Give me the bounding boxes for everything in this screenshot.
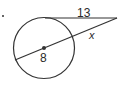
center-point [42, 46, 46, 50]
secant-line [15, 18, 117, 60]
diameter-label: 8 [40, 51, 47, 65]
secant-external-label: x [88, 29, 95, 41]
bullet-dot [2, 15, 4, 17]
tangent-length-label: 13 [77, 6, 91, 20]
geometry-diagram: 13 x 8 [0, 0, 123, 87]
